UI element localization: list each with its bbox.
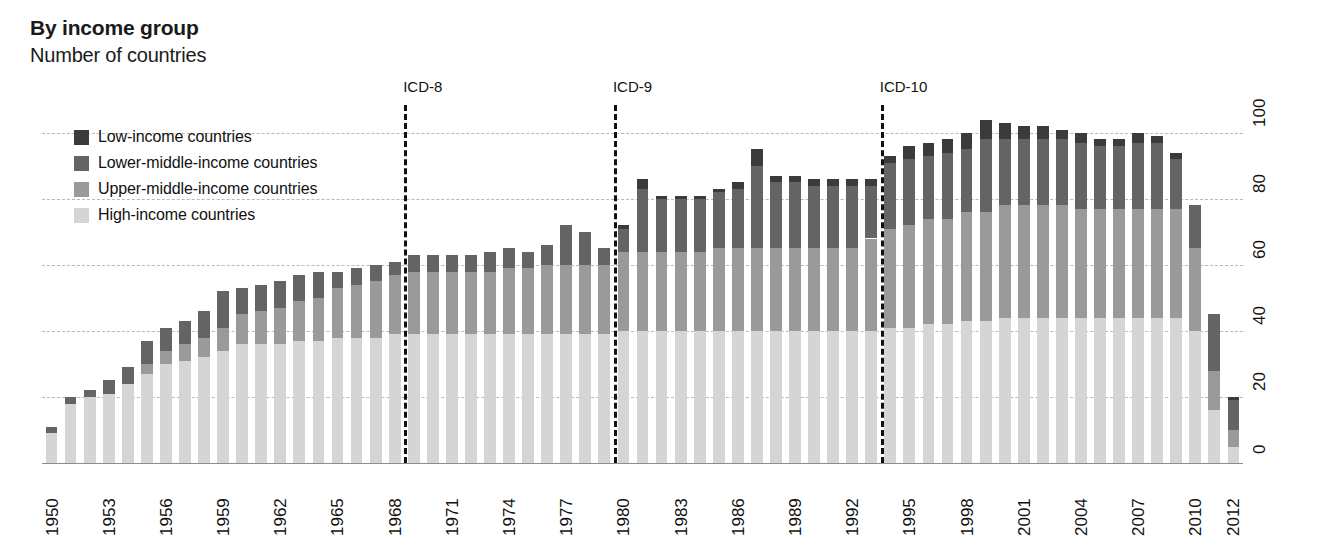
bar-segment: [370, 338, 382, 463]
bar-segment: [427, 255, 439, 272]
bar-segment: [1132, 209, 1144, 318]
x-tick-label: 1956: [157, 468, 177, 536]
x-tick-label: 1959: [214, 468, 234, 536]
bar-column: [522, 113, 534, 463]
legend-swatch-icon: [74, 130, 89, 145]
bar-segment: [1208, 410, 1220, 463]
bar-segment: [1018, 318, 1030, 463]
bar-segment: [236, 314, 248, 344]
bar-segment: [1132, 318, 1144, 463]
bar-column: [618, 113, 630, 463]
bar-segment: [923, 143, 935, 156]
bar-column: [846, 113, 858, 463]
bar-segment: [694, 199, 706, 252]
bar-column: [923, 113, 935, 463]
bar-segment: [313, 272, 325, 298]
bar-column: [789, 113, 801, 463]
bar-segment: [713, 331, 725, 463]
bar-segment: [65, 404, 77, 463]
bar-segment: [484, 252, 496, 272]
bar-segment: [789, 331, 801, 463]
bar-segment: [274, 281, 286, 307]
x-tick-label: 1998: [958, 468, 978, 536]
bar-column: [865, 113, 877, 463]
x-tick-label: 2001: [1015, 468, 1035, 536]
bar-segment: [1018, 126, 1030, 139]
bar-segment: [1208, 371, 1220, 411]
x-tick-label: 2010: [1186, 468, 1206, 536]
bar-segment: [560, 225, 572, 265]
x-tick-label: 1989: [786, 468, 806, 536]
bar-segment: [274, 308, 286, 344]
x-axis: 1950195319561959196219651968197119741977…: [42, 468, 1243, 548]
icd-marker-label: ICD-8: [403, 78, 442, 95]
legend-swatch-icon: [74, 208, 89, 223]
legend-label: Lower-middle-income countries: [98, 154, 317, 172]
x-tick-label: 1992: [843, 468, 863, 536]
bar-segment: [1151, 136, 1163, 143]
bar-segment: [846, 179, 858, 186]
bar-segment: [961, 321, 973, 463]
bar-segment: [713, 192, 725, 248]
bar-column: [1151, 113, 1163, 463]
bar-segment: [1113, 139, 1125, 146]
bar-segment: [1228, 400, 1240, 430]
bar-column: [827, 113, 839, 463]
bar-column: [351, 113, 363, 463]
bar-segment: [884, 328, 896, 463]
bar-segment: [541, 245, 553, 265]
bar-segment: [732, 182, 744, 189]
bar-column: [389, 113, 401, 463]
bar-segment: [1075, 209, 1087, 318]
bar-segment: [217, 328, 229, 351]
bar-segment: [1018, 139, 1030, 205]
bar-column: [1132, 113, 1144, 463]
bar-segment: [141, 364, 153, 374]
bar-column: [999, 113, 1011, 463]
bar-segment: [732, 248, 744, 331]
bar-column: [332, 113, 344, 463]
bar-segment: [942, 324, 954, 463]
icd-marker-line: [881, 105, 884, 463]
bar-segment: [656, 196, 668, 199]
bar-segment: [884, 229, 896, 328]
bar-segment: [1113, 146, 1125, 209]
bar-segment: [465, 334, 477, 463]
bar-column: [694, 113, 706, 463]
chart-legend: Low-income countriesLower-middle-income …: [74, 126, 317, 230]
bar-segment: [446, 255, 458, 272]
bar-segment: [1170, 209, 1182, 318]
bar-segment: [293, 341, 305, 463]
bar-segment: [789, 182, 801, 248]
x-tick-label: 2004: [1072, 468, 1092, 536]
bar-column: [942, 113, 954, 463]
bar-segment: [141, 341, 153, 364]
bar-segment: [808, 331, 820, 463]
bar-segment: [675, 199, 687, 252]
legend-swatch-icon: [74, 182, 89, 197]
bar-segment: [1056, 205, 1068, 317]
bar-column: [656, 113, 668, 463]
bar-segment: [351, 268, 363, 285]
legend-label: High-income countries: [98, 206, 255, 224]
bar-segment: [618, 229, 630, 252]
bar-segment: [808, 248, 820, 331]
bar-column: [1037, 113, 1049, 463]
legend-item: Upper-middle-income countries: [74, 178, 317, 200]
bar-segment: [1132, 143, 1144, 209]
bar-segment: [770, 182, 782, 248]
bar-segment: [1018, 205, 1030, 317]
bar-segment: [351, 338, 363, 463]
y-tick-label: 100: [1250, 111, 1290, 127]
bar-segment: [160, 328, 172, 351]
bar-column: [1228, 113, 1240, 463]
legend-label: Low-income countries: [98, 128, 252, 146]
bar-segment: [618, 331, 630, 463]
legend-item: Lower-middle-income countries: [74, 152, 317, 174]
bar-segment: [618, 225, 630, 228]
bar-column: [465, 113, 477, 463]
bar-segment: [980, 120, 992, 140]
bar-segment: [579, 334, 591, 463]
icd-marker-label: ICD-10: [880, 78, 928, 95]
gridline-0: [42, 463, 1243, 464]
